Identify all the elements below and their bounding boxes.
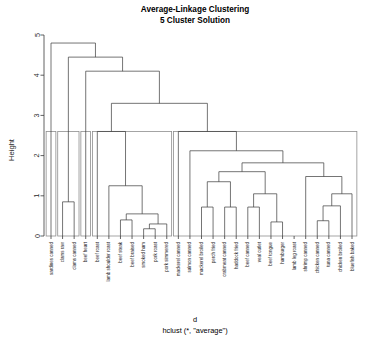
y-axis-label: Height xyxy=(7,138,16,161)
dendrogram-link xyxy=(225,207,237,236)
dendrogram-link xyxy=(68,57,122,202)
dendrogram-link xyxy=(97,131,125,236)
leaf-label: beef canned xyxy=(245,242,250,267)
dendrogram-svg: Average-Linkage Clustering 5 Cluster Sol… xyxy=(0,0,365,345)
leaf-label: clams raw xyxy=(60,241,65,262)
dendrogram-plot: Average-Linkage Clustering 5 Cluster Sol… xyxy=(0,0,365,345)
chart-title-line1: Average-Linkage Clustering xyxy=(141,5,249,14)
leaf-label: pork roast xyxy=(153,241,158,262)
leaf-label: chicken canned xyxy=(315,242,320,274)
dendrogram-link xyxy=(306,177,342,236)
dendrogram-link xyxy=(86,71,160,236)
dendrogram-link xyxy=(332,194,352,236)
leaf-label: lamb shoulder roast xyxy=(106,241,111,281)
dendrogram-link xyxy=(120,220,132,236)
dendrogram-link xyxy=(317,221,329,236)
dendrogram-link xyxy=(219,172,265,194)
y-axis-tick-label: 2 xyxy=(33,154,42,158)
dendrogram-link xyxy=(271,222,283,236)
dendrogram-link xyxy=(126,214,158,224)
dendrogram-link xyxy=(149,224,166,236)
dendrogram-link xyxy=(242,163,324,177)
y-axis-tick-label: 5 xyxy=(33,33,42,37)
dendrogram-link xyxy=(202,207,214,236)
dendrogram-link xyxy=(254,194,277,222)
dendrogram-link xyxy=(144,229,156,236)
x-axis-label: d xyxy=(193,315,197,324)
dendrogram-branches xyxy=(51,43,352,236)
leaf-label: crabmeat canned xyxy=(222,242,227,277)
y-axis-tick-label: 4 xyxy=(33,73,42,77)
leaf-label: beef tongue xyxy=(268,242,273,266)
leaf-label: clams canned xyxy=(72,242,77,270)
leaf-label: sardines canned xyxy=(49,242,54,276)
y-axis-tick-label: 3 xyxy=(33,113,42,117)
dendrogram-link xyxy=(248,207,260,236)
leaf-label: veal cutlet xyxy=(257,241,262,262)
leaf-tick-marks xyxy=(51,236,352,239)
leaf-label: mackerel canned xyxy=(176,242,181,277)
chart-title-line2: 5 Cluster Solution xyxy=(160,16,230,25)
leaf-label: beef steak xyxy=(118,241,123,263)
dendrogram-link xyxy=(207,182,230,207)
leaf-label: hamburger xyxy=(280,242,285,264)
leaf-label: pork simmered xyxy=(164,242,169,272)
leaf-label: tuna canned xyxy=(326,242,331,267)
method-label: hclust (*, "average") xyxy=(162,326,227,335)
leaf-label: haddock fried xyxy=(234,242,239,270)
leaf-label: bluefish baked xyxy=(350,242,355,272)
leaf-label: salmon canned xyxy=(187,242,192,273)
leaf-label: perch fried xyxy=(211,242,216,264)
leaf-labels: sardines cannedclams rawclams cannedbeef… xyxy=(49,241,355,281)
leaf-label: beef braised xyxy=(130,242,135,267)
y-axis-tick-label: 0 xyxy=(33,234,42,238)
leaf-label: beef roast xyxy=(95,241,100,262)
leaf-label: mackerel broiled xyxy=(199,242,204,276)
leaf-label: shrimp canned xyxy=(303,242,308,272)
dendrogram-link xyxy=(109,186,142,236)
leaf-label: beef heart xyxy=(83,241,88,262)
y-axis-tick-label: 1 xyxy=(33,194,42,198)
leaf-label: lamb leg roast xyxy=(292,241,297,270)
leaf-label: chicken broiled xyxy=(338,242,343,273)
leaf-label: smoked ham xyxy=(141,242,146,268)
dendrogram-link xyxy=(111,103,207,131)
y-axis: 012345 xyxy=(33,33,45,238)
dendrogram-link xyxy=(63,202,75,236)
